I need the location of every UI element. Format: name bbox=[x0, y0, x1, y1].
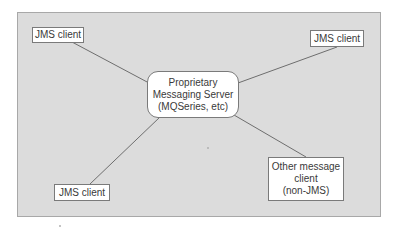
node-label: JMS client bbox=[35, 29, 81, 41]
jms-client-bottom-left: JMS client bbox=[54, 184, 110, 201]
edge-other-to-server bbox=[234, 115, 306, 157]
stray-dot bbox=[59, 225, 61, 227]
jms-client-top-left: JMS client bbox=[32, 27, 84, 43]
edge-bottom-left-to-server bbox=[90, 117, 160, 184]
stray-dot bbox=[207, 147, 209, 149]
messaging-server: Proprietary Messaging Server (MQSeries, … bbox=[147, 71, 239, 118]
edge-top-right-to-server bbox=[238, 47, 337, 83]
server-label-line-1: Proprietary bbox=[169, 77, 218, 89]
server-label-line-3: (MQSeries, etc) bbox=[158, 101, 228, 113]
other-label-line-1: Other message bbox=[272, 161, 340, 173]
jms-client-top-right: JMS client bbox=[310, 30, 364, 47]
other-message-client: Other message client (non-JMS) bbox=[268, 157, 344, 201]
other-label-line-2: client bbox=[294, 173, 317, 185]
node-label: JMS client bbox=[314, 33, 360, 45]
edge-top-left-to-server bbox=[72, 42, 149, 83]
node-label: JMS client bbox=[59, 187, 105, 199]
server-label-line-2: Messaging Server bbox=[153, 89, 234, 101]
other-label-line-3: (non-JMS) bbox=[283, 185, 330, 197]
